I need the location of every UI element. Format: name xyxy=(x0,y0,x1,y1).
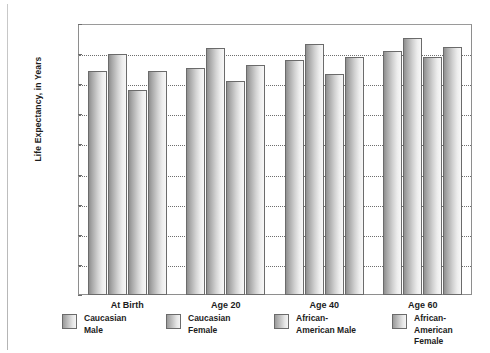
legend-item-1[interactable]: Caucasian Male xyxy=(62,313,127,336)
legend-item-4[interactable]: African- American Female xyxy=(392,313,482,348)
bar[interactable] xyxy=(128,90,147,295)
bar[interactable] xyxy=(148,71,167,295)
bar-group-2 xyxy=(177,24,276,295)
legend-swatch-icon xyxy=(62,314,77,329)
bar[interactable] xyxy=(246,65,265,295)
bar-group-1 xyxy=(78,24,177,295)
bar[interactable] xyxy=(423,57,442,295)
bar-group-4 xyxy=(374,24,473,295)
legend-swatch-icon xyxy=(392,314,407,329)
bar-group-3 xyxy=(275,24,374,295)
legend-label: African- American Female xyxy=(414,313,482,348)
legend-swatch-icon xyxy=(274,314,289,329)
legend-item-3[interactable]: African- American Male xyxy=(274,313,356,336)
bar[interactable] xyxy=(108,54,127,295)
y-tick-mark-0 xyxy=(78,295,82,296)
bar[interactable] xyxy=(226,81,245,295)
x-label-4: Age 60 xyxy=(374,300,473,310)
bar[interactable] xyxy=(383,51,402,295)
legend-label: Caucasian Female xyxy=(188,313,231,336)
chart-legend: Caucasian MaleCaucasian FemaleAfrican- A… xyxy=(62,313,482,351)
x-label-3: Age 40 xyxy=(275,300,374,310)
legend-label: Caucasian Male xyxy=(84,313,127,336)
bar[interactable] xyxy=(403,38,422,295)
bar[interactable] xyxy=(88,71,107,295)
bar[interactable] xyxy=(345,57,364,295)
legend-item-2[interactable]: Caucasian Female xyxy=(166,313,231,336)
x-label-2: Age 20 xyxy=(177,300,276,310)
bar[interactable] xyxy=(443,47,462,295)
bar[interactable] xyxy=(186,68,205,295)
bar[interactable] xyxy=(305,44,324,295)
y-axis-title: Life Expectancy, in Years xyxy=(33,9,43,209)
x-label-1: At Birth xyxy=(78,300,177,310)
bar[interactable] xyxy=(325,74,344,295)
bar[interactable] xyxy=(285,60,304,295)
bar-chart: Life Expectancy, in Years 01020304050607… xyxy=(0,0,490,300)
bars-layer xyxy=(78,24,472,295)
legend-swatch-icon xyxy=(166,314,181,329)
bar[interactable] xyxy=(206,48,225,295)
legend-label: African- American Male xyxy=(296,313,356,336)
